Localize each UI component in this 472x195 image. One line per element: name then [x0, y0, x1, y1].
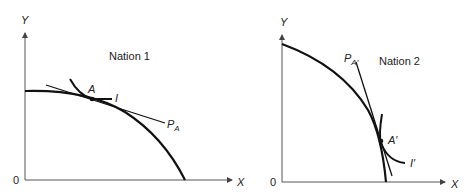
point-a-label: A: [87, 83, 95, 95]
panel-title-2: Nation 2: [379, 55, 420, 67]
indifference-label-1: I: [115, 92, 118, 104]
price-line-label-2: PA′: [344, 52, 359, 67]
panel-nation-2: Y 0 X A′ I′ PA′ Nation 2: [270, 16, 459, 190]
price-line-label-1: PA: [167, 118, 180, 133]
point-a-prime-label: A′: [387, 134, 398, 146]
origin-label-2: 0: [270, 176, 276, 188]
x-axis-label-1: X: [236, 176, 245, 188]
y-axis-label-2: Y: [280, 16, 288, 28]
price-line-1: [46, 85, 165, 123]
panel-title-1: Nation 1: [109, 50, 150, 62]
price-line-2: [356, 62, 392, 176]
ppf-curve-2: [282, 44, 386, 182]
point-a: [90, 97, 95, 102]
indifference-label-2: I′: [410, 157, 416, 169]
origin-label-1: 0: [13, 174, 19, 186]
panel-nation-1: Y 0 X A I PA Nation 1: [13, 14, 245, 188]
x-axis-label-2: X: [450, 178, 459, 190]
y-axis-label-1: Y: [21, 14, 29, 26]
point-a-prime: [379, 139, 384, 144]
